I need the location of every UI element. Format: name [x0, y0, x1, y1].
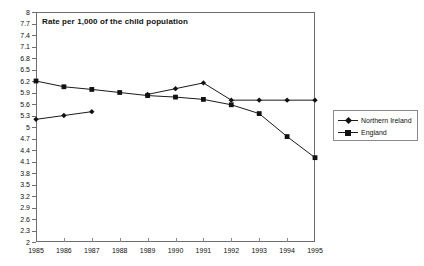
x-tick-label: 1988: [112, 247, 128, 254]
x-tick-label: 1994: [279, 247, 295, 254]
x-tick-mark: [231, 238, 232, 242]
legend-label-northern-ireland: Northern Ireland: [361, 117, 412, 125]
x-tick-label: 1992: [224, 247, 240, 254]
diamond-marker-icon: [338, 116, 358, 125]
legend-item-england: England: [338, 127, 387, 138]
x-tick-mark: [203, 238, 204, 242]
x-tick-label: 1990: [168, 247, 184, 254]
x-tick-mark: [259, 238, 260, 242]
square-marker-icon: [338, 128, 358, 137]
x-tick-mark: [120, 238, 121, 242]
x-tick-mark: [92, 238, 93, 242]
legend-item-northern-ireland: Northern Ireland: [338, 115, 412, 126]
x-tick-label: 1995: [307, 247, 323, 254]
x-tick-label: 1986: [56, 247, 72, 254]
x-tick-label: 1985: [28, 247, 44, 254]
x-tick-label: 1993: [251, 247, 267, 254]
x-tick-label: 1987: [84, 247, 100, 254]
x-tick-mark: [148, 238, 149, 242]
x-tick-mark: [287, 238, 288, 242]
chart-figure: Rate per 1,000 of the child population 8…: [0, 0, 424, 266]
x-tick-label: 1989: [140, 247, 156, 254]
x-tick-mark: [64, 238, 65, 242]
x-tick-label: 1991: [196, 247, 212, 254]
x-tick-mark: [176, 238, 177, 242]
legend-label-england: England: [361, 129, 387, 137]
chart-legend: Northern Ireland England: [333, 110, 418, 141]
